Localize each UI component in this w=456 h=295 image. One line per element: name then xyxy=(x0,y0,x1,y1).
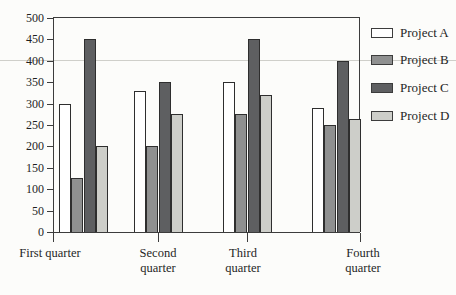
bar-project-d-q4 xyxy=(349,119,361,232)
legend-label-project-b: Project B xyxy=(400,52,449,68)
x-category-label-first-quarter: First quarter xyxy=(18,246,82,261)
y-tick-label-450: 450 xyxy=(10,32,44,46)
y-tick-400 xyxy=(47,61,53,62)
x-tick-third-quarter xyxy=(247,233,248,242)
bar-project-a-q2 xyxy=(134,91,146,232)
y-tick-200 xyxy=(47,146,53,147)
bar-project-d-q3 xyxy=(260,95,272,232)
bar-project-a-q4 xyxy=(312,108,324,232)
bars-container xyxy=(54,18,359,232)
x-category-label-second-quarter: Second quarter xyxy=(126,246,190,276)
y-tick-500 xyxy=(47,18,53,19)
y-tick-350 xyxy=(47,82,53,83)
y-tick-250 xyxy=(47,125,53,126)
bar-project-b-q2 xyxy=(146,146,158,232)
plot-area xyxy=(53,17,360,233)
y-tick-label-200: 200 xyxy=(10,139,44,153)
y-tick-label-300: 300 xyxy=(10,97,44,111)
y-tick-300 xyxy=(47,104,53,105)
bar-project-a-q3 xyxy=(223,82,235,232)
bar-project-a-q1 xyxy=(59,104,71,232)
bar-project-c-q2 xyxy=(159,82,171,232)
legend-swatch-project-d xyxy=(371,111,393,121)
legend-item-project-c: Project C xyxy=(371,80,449,96)
bar-project-c-q1 xyxy=(84,39,96,232)
y-tick-label-50: 50 xyxy=(10,204,44,218)
x-tick-first-quarter xyxy=(53,233,54,242)
legend-item-project-a: Project A xyxy=(371,25,449,41)
bar-project-d-q1 xyxy=(96,146,108,232)
bar-project-b-q3 xyxy=(235,114,247,232)
x-category-label-fourth-quarter: Fourth quarter xyxy=(331,246,395,276)
bar-project-c-q4 xyxy=(337,61,349,232)
y-tick-label-100: 100 xyxy=(10,182,44,196)
y-tick-label-500: 500 xyxy=(10,11,44,25)
y-tick-label-150: 150 xyxy=(10,161,44,175)
legend-swatch-project-a xyxy=(371,28,393,38)
legend-swatch-project-c xyxy=(371,83,393,93)
x-tick-fourth-quarter xyxy=(360,233,361,242)
legend-item-project-d: Project D xyxy=(371,108,449,124)
legend: Project AProject BProject CProject D xyxy=(371,0,456,140)
y-tick-150 xyxy=(47,168,53,169)
legend-swatch-project-b xyxy=(371,55,393,65)
y-tick-100 xyxy=(47,189,53,190)
y-tick-label-400: 400 xyxy=(10,54,44,68)
y-tick-label-0: 0 xyxy=(10,225,44,239)
bar-chart-figure: 050100150200250300350400450500 First qua… xyxy=(0,0,456,295)
y-tick-label-250: 250 xyxy=(10,118,44,132)
y-tick-450 xyxy=(47,39,53,40)
x-category-label-third-quarter: Third quarter xyxy=(211,246,275,276)
x-tick-second-quarter xyxy=(158,233,159,242)
y-tick-50 xyxy=(47,211,53,212)
bar-project-b-q1 xyxy=(71,178,83,232)
legend-item-project-b: Project B xyxy=(371,52,449,68)
y-tick-label-350: 350 xyxy=(10,75,44,89)
bar-project-d-q2 xyxy=(171,114,183,232)
bar-project-b-q4 xyxy=(324,125,336,232)
bar-project-c-q3 xyxy=(248,39,260,232)
legend-label-project-d: Project D xyxy=(400,108,449,124)
legend-label-project-c: Project C xyxy=(400,80,449,96)
legend-label-project-a: Project A xyxy=(400,25,449,41)
